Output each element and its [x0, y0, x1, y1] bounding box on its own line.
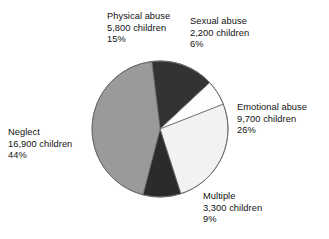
- slice-label-multiple: Multiple 3,300 children 9%: [203, 191, 262, 226]
- slice-label-neglect-percent: 44%: [8, 150, 72, 162]
- slice-label-physical-abuse: Physical abuse 5,800 children 15%: [107, 11, 170, 46]
- slice-label-sexual-abuse-name: Sexual abuse: [190, 16, 249, 28]
- slice-label-emotional-abuse-percent: 26%: [237, 125, 307, 137]
- pie-chart-figure: Physical abuse 5,800 children 15% Sexual…: [0, 0, 329, 239]
- slice-label-physical-abuse-name: Physical abuse: [107, 11, 170, 23]
- slice-label-neglect-count: 16,900 children: [8, 139, 72, 151]
- slice-label-physical-abuse-percent: 15%: [107, 34, 170, 46]
- pie-slice-group: [92, 61, 228, 197]
- slice-label-sexual-abuse-count: 2,200 children: [190, 28, 249, 40]
- slice-label-neglect: Neglect 16,900 children 44%: [8, 127, 72, 162]
- slice-label-sexual-abuse-percent: 6%: [190, 39, 249, 51]
- slice-label-emotional-abuse: Emotional abuse 9,700 children 26%: [237, 102, 307, 137]
- slice-label-multiple-percent: 9%: [203, 214, 262, 226]
- slice-label-emotional-abuse-name: Emotional abuse: [237, 102, 307, 114]
- slice-label-multiple-name: Multiple: [203, 191, 262, 203]
- slice-label-physical-abuse-count: 5,800 children: [107, 23, 170, 35]
- slice-label-neglect-name: Neglect: [8, 127, 72, 139]
- slice-label-multiple-count: 3,300 children: [203, 203, 262, 215]
- slice-label-sexual-abuse: Sexual abuse 2,200 children 6%: [190, 16, 249, 51]
- slice-label-emotional-abuse-count: 9,700 children: [237, 114, 307, 126]
